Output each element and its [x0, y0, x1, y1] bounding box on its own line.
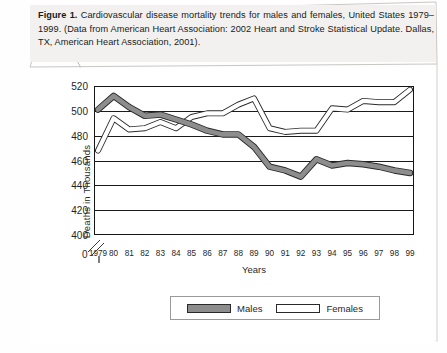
x-axis-tick-label: 95 — [343, 249, 352, 258]
y-axis-tick-label: 500 — [71, 105, 88, 116]
x-axis-tick-label: 88 — [234, 249, 243, 258]
x-axis-tick-label: 86 — [203, 249, 212, 258]
x-axis-tick-label: 82 — [140, 249, 149, 258]
x-axis-tick-label: 99 — [405, 249, 414, 258]
figure-page: Figure 1. Cardiovascular disease mortali… — [0, 0, 447, 353]
legend-swatch-males-icon — [187, 304, 231, 313]
x-axis-tick-label: 91 — [281, 249, 290, 258]
x-axis-tick-label: 98 — [390, 249, 399, 258]
legend-item-males: Males — [187, 303, 262, 314]
x-axis-label: Years — [94, 264, 414, 275]
x-axis-tick-label: 84 — [171, 249, 180, 258]
chart-legend: Males Females — [170, 296, 380, 320]
figure-caption-text: Cardiovascular disease mortality trends … — [38, 10, 434, 47]
legend-label-males: Males — [237, 303, 262, 314]
x-axis-tick-label: 96 — [359, 249, 368, 258]
y-axis-tick-label: 420 — [71, 205, 88, 216]
series-band-fill-males — [98, 96, 410, 177]
figure-label: Figure 1. — [38, 10, 77, 20]
chart-area: Deaths in Thousands 40042044046048050052… — [30, 68, 436, 345]
x-axis-tick-label: 90 — [265, 249, 274, 258]
x-axis-tick-label: 93 — [312, 249, 321, 258]
y-axis-tick-label: 460 — [71, 155, 88, 166]
x-axis-tick-label: 89 — [249, 249, 258, 258]
legend-swatch-females-icon — [276, 304, 320, 313]
x-axis-tick-label: 85 — [187, 249, 196, 258]
y-axis-tick-label: 520 — [71, 81, 88, 92]
x-axis-tick-label: 81 — [125, 249, 134, 258]
y-axis-tick-label: 480 — [71, 130, 88, 141]
y-axis-zero-tick: 0 — [82, 249, 88, 260]
x-axis-tick-label: 92 — [296, 249, 305, 258]
legend-item-females: Females — [276, 303, 362, 314]
x-axis-tick-label: 97 — [374, 249, 383, 258]
x-axis-tick-label: 83 — [156, 249, 165, 258]
plot-region: 400420440460480500520 197980818283848586… — [94, 86, 414, 235]
x-axis-tick-label: 87 — [218, 249, 227, 258]
series-band-fill-females — [98, 90, 410, 151]
series-lines — [94, 86, 414, 235]
y-axis-tick-label: 440 — [71, 180, 88, 191]
legend-label-females: Females — [326, 303, 362, 314]
x-axis-tick-label: 94 — [327, 249, 336, 258]
axis-break-icon — [86, 238, 112, 264]
figure-caption: Figure 1. Cardiovascular disease mortali… — [38, 9, 434, 50]
